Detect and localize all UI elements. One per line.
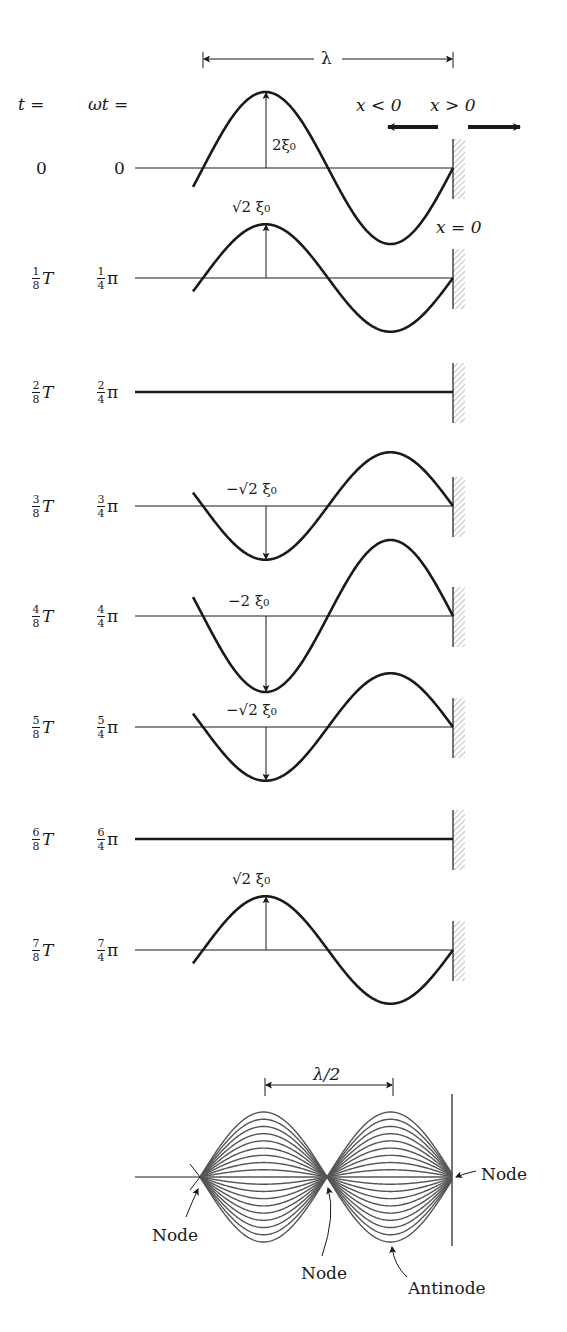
wall-hatch: [453, 698, 465, 758]
amplitude-label: −√2 ξ₀: [226, 482, 277, 497]
time-label: 58T: [32, 715, 53, 739]
phase-label: 44π: [97, 604, 118, 628]
fraction: 68: [32, 827, 40, 852]
t-column-header: t =: [18, 96, 44, 113]
fraction: 44: [97, 604, 105, 629]
antinode-label: Antinode: [408, 1280, 486, 1297]
node-label-middle: Node: [301, 1265, 347, 1282]
right-node-pointer: [456, 1171, 476, 1177]
standing-wave-envelope: [200, 1177, 452, 1228]
wall-hatch: [453, 363, 465, 423]
phase-label: 64π: [97, 827, 118, 851]
standing-wave-envelope: [200, 1177, 452, 1242]
amplitude-label: −√2 ξ₀: [226, 703, 277, 718]
time-label: 78T: [32, 938, 53, 962]
fraction: 34: [97, 494, 105, 519]
fraction: 38: [32, 494, 40, 519]
time-label: 38T: [32, 494, 53, 518]
wall-position-label: x = 0: [436, 219, 481, 236]
wavelength-label: λ: [321, 50, 332, 67]
amplitude-label: √2 ξ₀: [232, 200, 270, 215]
phase-label: 34π: [97, 494, 118, 518]
amplitude-label: 2ξ₀: [272, 138, 296, 153]
standing-wave-envelope: [200, 1177, 452, 1206]
wall-hatch: [453, 249, 465, 309]
fraction: 18: [32, 266, 40, 291]
phase-label: 24π: [97, 380, 118, 404]
node-label-right: Node: [481, 1166, 527, 1183]
half-wavelength-label: λ/2: [313, 1066, 340, 1083]
wall-hatch: [453, 921, 465, 981]
standing-wave-envelope: [200, 1155, 452, 1177]
left-direction-label: x < 0: [356, 97, 401, 114]
fraction: 58: [32, 715, 40, 740]
fraction: 48: [32, 604, 40, 629]
phase-label: 54π: [97, 715, 118, 739]
standing-wave-envelope: [200, 1112, 452, 1177]
wall-hatch: [453, 477, 465, 537]
amplitude-label: √2 ξ₀: [232, 872, 270, 887]
omega-t-column-header: ωt =: [88, 96, 128, 113]
fraction: 28: [32, 380, 40, 405]
phase-label: 0: [114, 156, 125, 180]
standing-wave-envelope: [200, 1177, 452, 1199]
left-node-pointer: [186, 1189, 198, 1217]
time-label: 0: [36, 156, 47, 180]
phase-label: 14π: [97, 266, 118, 290]
wall-hatch: [453, 139, 465, 199]
wall-hatch: [453, 587, 465, 647]
fraction: 74: [97, 938, 105, 963]
node-label-left: Node: [152, 1227, 198, 1244]
fraction: 78: [32, 938, 40, 963]
standing-wave-envelope: [200, 1148, 452, 1177]
standing-wave-figure: [0, 0, 567, 1332]
amplitude-label: −2 ξ₀: [228, 594, 269, 609]
standing-wave-envelope: [200, 1126, 452, 1177]
fraction: 54: [97, 715, 105, 740]
time-label: 48T: [32, 604, 53, 628]
phase-label: 74π: [97, 938, 118, 962]
time-label: 28T: [32, 380, 53, 404]
middle-node-pointer: [322, 1188, 331, 1256]
right-direction-label: x > 0: [430, 97, 475, 114]
fraction: 64: [97, 827, 105, 852]
fraction: 14: [97, 266, 105, 291]
antinode-pointer: [392, 1247, 407, 1277]
fraction: 24: [97, 380, 105, 405]
wall-hatch: [453, 810, 465, 870]
time-label: 68T: [32, 827, 53, 851]
time-label: 18T: [32, 266, 53, 290]
